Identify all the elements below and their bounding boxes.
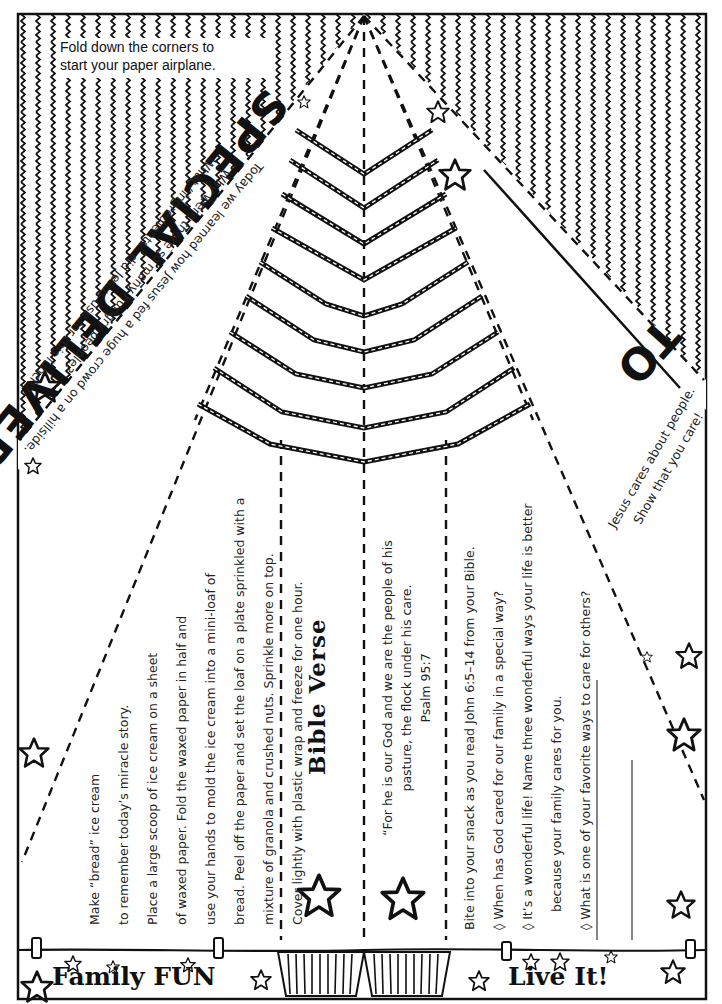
family-fun-line: use your hands to mold the ice cream int… xyxy=(196,498,225,925)
live-it-banner: Live It! xyxy=(508,962,608,991)
instruction-line-1: Fold down the corners to xyxy=(60,38,274,56)
family-fun-line: Make “bread” ice cream xyxy=(80,498,109,925)
family-fun-instructions: Make “bread” ice cream to remember today… xyxy=(80,498,312,925)
family-fun-line: to remember today’s miracle story. xyxy=(109,498,138,925)
instruction-box: Fold down the corners to start your pape… xyxy=(56,38,274,78)
live-it-question: ◊ It’s a wonderful life! Name three wond… xyxy=(513,504,542,930)
family-fun-line: bread. Peel off the paper and set the lo… xyxy=(225,498,254,925)
instruction-line-2: start your paper airplane. xyxy=(60,56,274,74)
verse-line-2: pasture, the flock under his care. xyxy=(397,538,416,838)
live-it-line: because your family cares for you. xyxy=(542,504,571,930)
family-fun-line: mixture of granola and crushed nuts. Spr… xyxy=(254,498,283,925)
live-it-question: ◊ What is one of your favorite ways to c… xyxy=(571,504,600,930)
bible-verse-heading: Bible Verse xyxy=(303,618,330,775)
live-it-instructions: Bite into your snack as you read John 6:… xyxy=(455,504,600,930)
verse-line-1: “For he is our God and we are the people… xyxy=(378,538,397,838)
verse-reference: Psalm 95:7 xyxy=(416,538,435,838)
rope-post xyxy=(502,942,511,960)
live-it-question: ◊ When has God cared for our family in a… xyxy=(484,504,513,930)
rope-post xyxy=(214,938,223,958)
activity-page: Fold down the corners to start your pape… xyxy=(0,0,722,1004)
bible-verse-text: “For he is our God and we are the people… xyxy=(378,538,435,838)
family-fun-banner: Family FUN xyxy=(52,962,216,991)
live-it-line: Bite into your snack as you read John 6:… xyxy=(455,504,484,930)
banner-rope xyxy=(18,949,706,951)
family-fun-line: Place a large scoop of ice cream on a sh… xyxy=(138,498,167,925)
rope-post xyxy=(32,938,41,958)
rope-post xyxy=(686,940,695,958)
family-fun-line: of waxed paper. Fold the waxed paper in … xyxy=(167,498,196,925)
